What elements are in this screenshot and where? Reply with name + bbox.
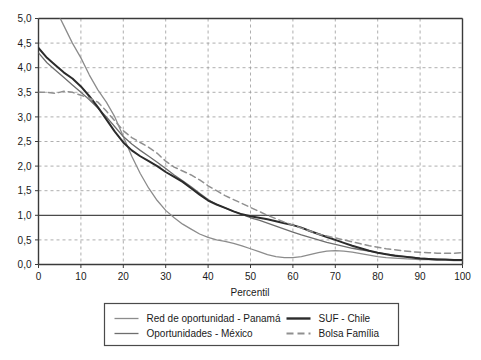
y-tick-label: 3,5 — [18, 87, 32, 98]
y-tick-label: 2,0 — [18, 161, 32, 172]
y-tick-label: 4,0 — [18, 62, 32, 73]
x-tick-label: 80 — [372, 271, 384, 282]
legend-label: Bolsa Família — [319, 328, 380, 339]
x-tick-label: 100 — [454, 271, 471, 282]
x-tick-label: 50 — [245, 271, 257, 282]
y-tick-label: 1,5 — [18, 185, 32, 196]
y-tick-label: 0,5 — [18, 235, 32, 246]
x-tick-label: 90 — [415, 271, 427, 282]
x-axis-title: Percentil — [231, 287, 270, 298]
y-tick-label: 3,0 — [18, 112, 32, 123]
y-tick-label: 2,5 — [18, 136, 32, 147]
x-tick-label: 60 — [287, 271, 299, 282]
y-tick-label: 1,0 — [18, 210, 32, 221]
legend-label: SUF - Chile — [319, 313, 371, 324]
legend-label: Red de oportunidad - Panamá — [147, 313, 281, 324]
x-tick-label: 40 — [203, 271, 215, 282]
y-tick-label: 0,0 — [18, 259, 32, 270]
y-tick-label: 4,5 — [18, 38, 32, 49]
y-tick-label: 5,0 — [18, 13, 32, 24]
legend-label: Oportunidades - México — [147, 328, 254, 339]
x-tick-label: 0 — [36, 271, 42, 282]
x-tick-label: 30 — [160, 271, 172, 282]
x-tick-label: 70 — [330, 271, 342, 282]
chart-figure: 0102030405060708090100 0,00,51,01,52,02,… — [0, 0, 481, 360]
chart-legend: Red de oportunidad - PanamáSUF - ChileOp… — [105, 304, 399, 346]
line-chart: 0102030405060708090100 0,00,51,01,52,02,… — [0, 0, 481, 360]
x-tick-label: 20 — [118, 271, 130, 282]
x-tick-label: 10 — [75, 271, 87, 282]
